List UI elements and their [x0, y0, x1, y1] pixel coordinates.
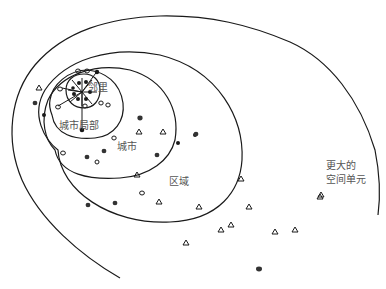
diagram-drawing — [0, 0, 386, 289]
label-neighborhood: 邻里 — [88, 82, 108, 94]
label-city: 城市 — [117, 141, 137, 153]
label-city-local: 城市局部 — [59, 120, 99, 132]
label-larger-unit-line1: 更大的 — [326, 159, 356, 172]
ring-larger-spatial-unit — [12, 16, 379, 278]
nested-spatial-scales-diagram: 邻里 城市局部 城市 区域 更大的 空间单元 — [0, 0, 386, 289]
label-region: 区域 — [169, 176, 189, 188]
label-larger-unit-line2: 空间单元 — [326, 173, 366, 186]
